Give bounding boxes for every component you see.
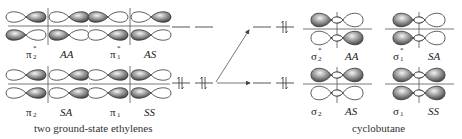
orbital-pi2 [6,66,89,103]
orbital-sigma2 [303,67,372,103]
orbital-sigma1 [385,67,454,103]
orbital-pi1 [88,66,171,103]
label-pi2-star: π*2 [26,48,32,60]
symmetry-aa-right: AA [345,50,358,62]
symmetry-ss-right: SS [428,105,439,117]
symmetry-aa-left: AA [60,48,73,60]
label-sigma1-star: σ*1 [393,50,399,62]
orbital-pi2-star [6,8,89,45]
correlation-diagram [0,0,462,139]
ethylene-bottom-level [172,77,213,89]
label-sigma1: σ1 [393,105,399,117]
orbital-sigma2-star [303,12,372,48]
label-pi1: π1 [110,106,116,118]
symmetry-as-left: AS [144,48,156,60]
symmetry-as-right: AS [345,105,357,117]
symmetry-ss-left: SS [144,106,155,118]
label-pi2: π2 [26,106,32,118]
orbital-sigma1-star [385,12,454,48]
orbital-pi1-star [88,8,171,45]
correlation-arrows [216,30,250,83]
caption-cyclobutane: cyclobutane [352,122,405,134]
cyclobutane-top-level [253,21,294,33]
symmetry-sa-right: SA [428,50,440,62]
label-sigma2: σ2 [311,105,317,117]
symmetry-sa-left: SA [60,106,72,118]
caption-ethylenes: two ground-state ethylenes [34,122,153,134]
label-pi1-star: π*1 [110,48,116,60]
cyclobutane-bottom-level [253,77,294,89]
label-sigma2-star: σ*2 [311,50,317,62]
